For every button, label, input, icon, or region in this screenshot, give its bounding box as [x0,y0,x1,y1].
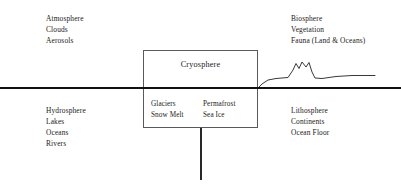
label-lithosphere: Lithosphere [291,105,329,116]
lithosphere-label-group: Lithosphere Continents Ocean Floor [291,105,329,138]
label-continents: Continents [291,116,329,127]
cryosphere-left-column: Glaciers Snow Melt [151,99,184,120]
label-snow-melt: Snow Melt [151,110,184,121]
label-rivers: Rivers [46,138,86,149]
label-lakes: Lakes [46,116,86,127]
label-permafrost: Permafrost [203,99,236,110]
atmosphere-label-group: Atmosphere Clouds Aerosols [46,13,84,46]
label-biosphere: Biosphere [291,13,365,24]
label-glaciers: Glaciers [151,99,184,110]
cryosphere-right-column: Permafrost Sea Ice [203,99,236,120]
label-aerosols: Aerosols [46,35,84,46]
label-atmosphere: Atmosphere [46,13,84,24]
terrain-profile-line [258,62,375,88]
label-vegetation: Vegetation [291,24,365,35]
hydrosphere-label-group: Hydrosphere Lakes Oceans Rivers [46,105,86,149]
diagram-canvas: Atmosphere Clouds Aerosols Biosphere Veg… [0,0,401,187]
cryosphere-title: Cryosphere [143,60,258,69]
biosphere-label-group: Biosphere Vegetation Fauna (Land & Ocean… [291,13,365,46]
label-clouds: Clouds [46,24,84,35]
label-sea-ice: Sea Ice [203,110,236,121]
label-ocean-floor: Ocean Floor [291,127,329,138]
label-oceans: Oceans [46,127,86,138]
label-hydrosphere: Hydrosphere [46,105,86,116]
label-fauna: Fauna (Land & Oceans) [291,35,365,46]
